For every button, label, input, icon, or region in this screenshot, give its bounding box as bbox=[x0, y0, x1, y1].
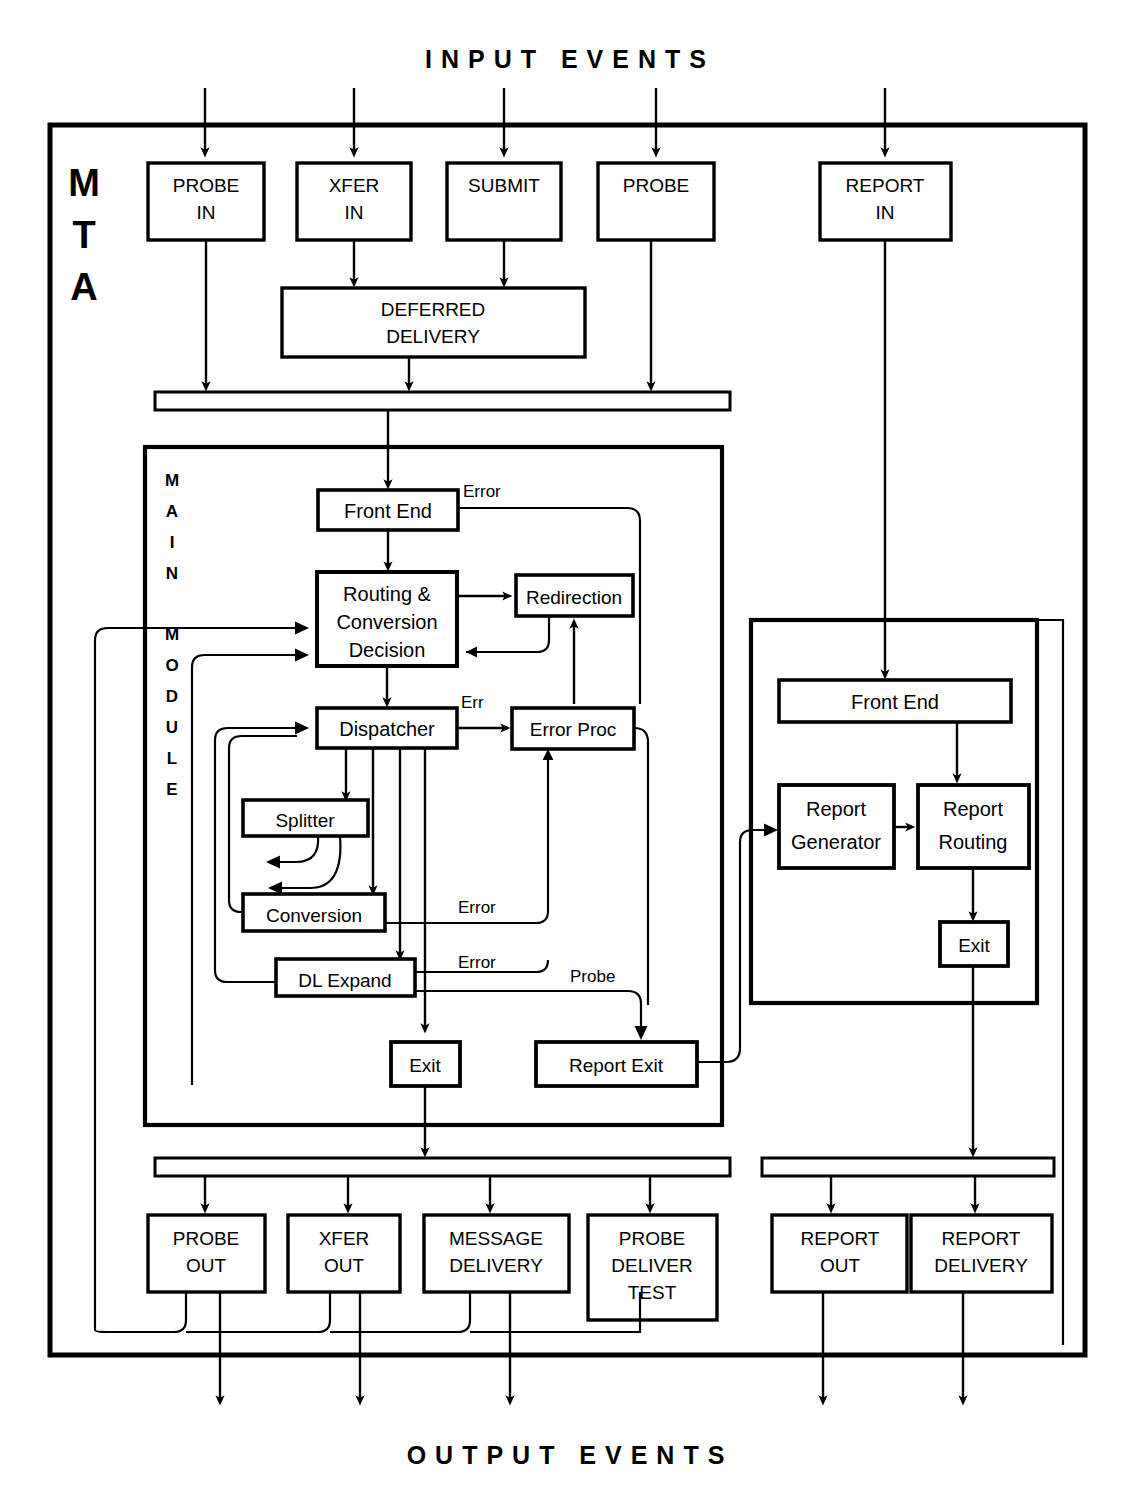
report-exit-label: Report Exit bbox=[569, 1055, 664, 1076]
main-module-letter-2: I bbox=[170, 533, 175, 552]
output-bus-bar-right bbox=[762, 1158, 1054, 1176]
deferred-delivery-line1: DEFERRED bbox=[381, 299, 486, 320]
edge-redirection-to-rcd bbox=[466, 616, 549, 652]
main-module-frame bbox=[145, 447, 722, 1125]
input-box-xfer-in-line1: XFER bbox=[329, 175, 380, 196]
box-redirection[interactable]: Redirection bbox=[516, 575, 633, 616]
box-report-front-end[interactable]: Front End bbox=[779, 680, 1011, 722]
exit-label: Exit bbox=[409, 1055, 441, 1076]
box-splitter[interactable]: Splitter bbox=[243, 800, 368, 836]
input-box-probe-in[interactable]: PROBE IN bbox=[148, 163, 264, 240]
conversion-label: Conversion bbox=[266, 905, 362, 926]
dispatcher-label: Dispatcher bbox=[339, 718, 435, 740]
mta-architecture-diagram: INPUT EVENTS M T A PROBE IN XFER IN SUBM… bbox=[0, 0, 1140, 1500]
main-module-letter-7: U bbox=[166, 718, 178, 737]
box-report-exit[interactable]: Report Exit bbox=[536, 1042, 697, 1086]
output-box-probe-deliver-test[interactable]: PROBE DELIVER TEST bbox=[588, 1215, 717, 1320]
input-box-xfer-in-line2: IN bbox=[345, 202, 364, 223]
diagram-canvas: INPUT EVENTS M T A PROBE IN XFER IN SUBM… bbox=[0, 0, 1140, 1500]
output-box-report-delivery[interactable]: REPORT DELIVERY bbox=[911, 1215, 1052, 1292]
box-dispatcher[interactable]: Dispatcher bbox=[317, 708, 457, 748]
output-box-xfer-out[interactable]: XFER OUT bbox=[288, 1215, 400, 1292]
input-bus-bar bbox=[155, 392, 730, 410]
input-box-report-in-line2: IN bbox=[876, 202, 895, 223]
mta-letter-m: M bbox=[68, 162, 100, 204]
label-conversion-error: Error bbox=[458, 898, 496, 917]
splitter-label: Splitter bbox=[275, 810, 335, 831]
probe-deliver-test-line1: PROBE bbox=[619, 1228, 686, 1249]
main-module-letter-1: A bbox=[166, 502, 178, 521]
input-events-title: INPUT EVENTS bbox=[425, 45, 715, 73]
xfer-out-line1: XFER bbox=[319, 1228, 370, 1249]
box-front-end[interactable]: Front End bbox=[318, 490, 458, 530]
edge-dl-expand-probe bbox=[415, 991, 641, 1027]
label-dispatcher-err: Err bbox=[461, 693, 484, 712]
redirection-label: Redirection bbox=[526, 587, 622, 608]
box-deferred-delivery[interactable]: DEFERRED DELIVERY bbox=[282, 288, 585, 357]
edge-dl-expand-to-dispatcher bbox=[215, 728, 297, 982]
output-events-title: OUTPUT EVENTS bbox=[407, 1441, 734, 1469]
input-box-report-in-line1: REPORT bbox=[846, 175, 925, 196]
rcd-line1: Routing & bbox=[343, 583, 431, 605]
box-dl-expand[interactable]: DL Expand bbox=[276, 959, 415, 996]
report-delivery-line1: REPORT bbox=[942, 1228, 1021, 1249]
edge-splitter-loop-1 bbox=[278, 836, 318, 862]
error-proc-label: Error Proc bbox=[530, 719, 617, 740]
box-report-module-exit[interactable]: Exit bbox=[940, 922, 1008, 966]
edge-probe-out-feedback bbox=[107, 1292, 186, 1332]
box-error-proc[interactable]: Error Proc bbox=[512, 708, 634, 749]
input-box-probe[interactable]: PROBE bbox=[598, 163, 714, 240]
output-box-report-out[interactable]: REPORT OUT bbox=[772, 1215, 907, 1292]
xfer-out-line2: OUT bbox=[324, 1255, 365, 1276]
edge-xfer-out-feedback bbox=[186, 1292, 330, 1332]
probe-deliver-test-line3: TEST bbox=[628, 1282, 677, 1303]
report-module-exit-label: Exit bbox=[958, 935, 990, 956]
box-report-generator[interactable]: Report Generator bbox=[779, 785, 894, 868]
output-box-probe-out[interactable]: PROBE OUT bbox=[148, 1215, 265, 1292]
report-generator-line1: Report bbox=[806, 798, 866, 820]
probe-deliver-test-line2: DELIVER bbox=[611, 1255, 692, 1276]
front-end-label: Front End bbox=[344, 500, 432, 522]
input-box-submit[interactable]: SUBMIT bbox=[447, 163, 561, 240]
report-generator-line2: Generator bbox=[791, 831, 881, 853]
edge-errorproc-down bbox=[634, 728, 648, 1005]
probe-out-line1: PROBE bbox=[173, 1228, 240, 1249]
arrowhead-report-exit-to-generator bbox=[764, 824, 778, 837]
message-delivery-line1: MESSAGE bbox=[449, 1228, 543, 1249]
label-front-end-error: Error bbox=[463, 482, 501, 501]
edge-report-module-right-top bbox=[1037, 620, 1063, 1003]
main-module-letter-6: D bbox=[166, 687, 178, 706]
box-exit[interactable]: Exit bbox=[391, 1042, 460, 1086]
edge-report-exit-to-generator bbox=[697, 830, 766, 1062]
report-front-end-label: Front End bbox=[851, 691, 939, 713]
input-box-probe-line1: PROBE bbox=[623, 175, 690, 196]
report-routing-line1: Report bbox=[943, 798, 1003, 820]
main-module-letter-5: O bbox=[165, 656, 178, 675]
label-dl-expand-error: Error bbox=[458, 953, 496, 972]
main-module-letter-8: L bbox=[167, 749, 177, 768]
arrowhead-dl-probe bbox=[635, 1026, 648, 1040]
rcd-line3: Decision bbox=[349, 639, 426, 661]
probe-out-line2: OUT bbox=[186, 1255, 227, 1276]
box-report-routing[interactable]: Report Routing bbox=[918, 785, 1029, 868]
output-box-message-delivery[interactable]: MESSAGE DELIVERY bbox=[424, 1215, 569, 1292]
arrowhead-dl-to-dispatcher bbox=[295, 722, 309, 735]
input-box-report-in[interactable]: REPORT IN bbox=[820, 163, 951, 240]
main-module-letter-3: N bbox=[166, 564, 178, 583]
main-module-letter-9: E bbox=[166, 780, 177, 799]
input-box-submit-line1: SUBMIT bbox=[468, 175, 540, 196]
box-routing-conversion-decision[interactable]: Routing & Conversion Decision bbox=[317, 572, 457, 666]
deferred-delivery-line2: DELIVERY bbox=[386, 326, 480, 347]
dl-expand-label: DL Expand bbox=[298, 970, 391, 991]
label-dl-expand-probe: Probe bbox=[570, 967, 615, 986]
rcd-line2: Conversion bbox=[336, 611, 437, 633]
input-box-probe-in-line2: IN bbox=[197, 202, 216, 223]
output-bus-bar-left bbox=[155, 1158, 730, 1176]
edge-feedback-corner bbox=[95, 1330, 107, 1332]
report-delivery-line2: DELIVERY bbox=[934, 1255, 1028, 1276]
input-box-xfer-in[interactable]: XFER IN bbox=[297, 163, 411, 240]
main-module-letter-0: M bbox=[165, 471, 179, 490]
report-routing-line2: Routing bbox=[939, 831, 1008, 853]
mta-letter-t: T bbox=[72, 214, 95, 256]
box-conversion[interactable]: Conversion bbox=[243, 894, 385, 931]
